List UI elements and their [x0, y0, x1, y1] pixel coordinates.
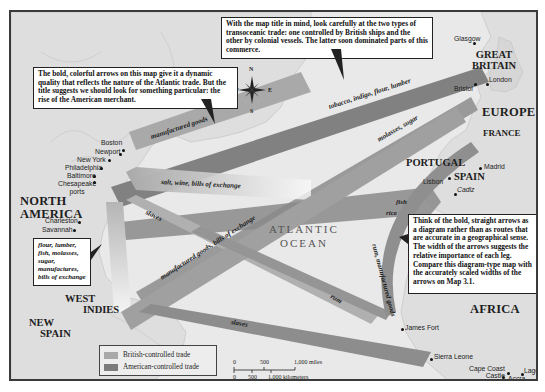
- route-label-rice: rice: [386, 209, 397, 217]
- city-chesapeake: Chesapeake ports: [58, 180, 96, 196]
- city-dot: [93, 181, 96, 184]
- region-west-indies-2: INDIES: [83, 305, 119, 316]
- legend: British-controlled trade American-contro…: [99, 345, 217, 376]
- scale-miles-1000: 1,000 miles: [294, 359, 322, 365]
- city-dot: [73, 229, 76, 232]
- region-europe: EUROPE: [482, 106, 535, 119]
- city-lagos: Lagos: [524, 368, 538, 375]
- city-dot: [119, 153, 122, 156]
- city-dot: [78, 221, 81, 224]
- legend-label-british: British-controlled trade: [123, 351, 190, 359]
- city-dot: [486, 83, 489, 86]
- legend-item-american: American-controlled trade: [104, 361, 212, 373]
- city-philadelphia: Philadelphia: [65, 165, 102, 172]
- region-atlantic-ocean: ATLANTIC OCEAN: [269, 223, 339, 251]
- callout-coastal-goods: flour, lumber, fish, molasses, sugar, ma…: [33, 238, 91, 286]
- atlantic-trade-map: N S W E With the map title in mind, look…: [9, 10, 538, 381]
- city-dot: [479, 167, 482, 170]
- region-spain: SPAIN: [454, 172, 485, 183]
- city-dot: [108, 159, 111, 162]
- city-new-york: New York: [77, 157, 106, 164]
- city-dot: [454, 193, 457, 196]
- city-savannah: Savannah: [42, 227, 73, 234]
- city-dot: [448, 177, 451, 180]
- compass-s: S: [250, 108, 253, 114]
- city-london: London: [489, 77, 512, 84]
- city-madrid: Madrid: [484, 164, 505, 171]
- legend-label-american: American-controlled trade: [123, 363, 199, 371]
- city-accra: Accra: [508, 376, 525, 381]
- scale-miles-500: 500: [260, 359, 269, 365]
- city-charleston: Charleston: [45, 218, 78, 225]
- city-dot: [93, 175, 96, 178]
- scale-km-1000: 1,000 kilometers: [268, 374, 308, 380]
- region-africa: AFRICA: [470, 303, 520, 316]
- city-dot: [100, 167, 103, 170]
- city-dot: [473, 42, 476, 45]
- scale-km-500: 500: [248, 374, 257, 380]
- legend-swatch-american: [104, 364, 118, 371]
- callout-right: Think of the bold, straight arrows as a …: [408, 214, 538, 294]
- city-dot: [521, 373, 524, 376]
- city-dot: [502, 376, 505, 379]
- city-dot: [122, 149, 125, 152]
- city-lisbon: Lisbon: [423, 179, 443, 186]
- city-dot: [507, 372, 510, 375]
- compass-e: E: [268, 87, 272, 93]
- city-james-fort: James Fort: [405, 325, 439, 332]
- region-great-britain: GREAT BRITAIN: [472, 49, 516, 71]
- city-baltimore: Baltimore: [67, 173, 96, 180]
- region-new-spain-2: SPAIN: [40, 329, 71, 340]
- city-boston: Boston: [101, 140, 122, 147]
- legend-swatch-british: [104, 352, 118, 359]
- callout-left: The bold, colorful arrows on this map gi…: [33, 67, 238, 109]
- scale-km-0: 0: [233, 374, 236, 380]
- scale-bar: 0 500 1,000 miles 0 500 1,000 kilometers: [233, 358, 343, 381]
- city-sierra-leone: Sierra Leone: [434, 354, 473, 361]
- city-dot: [474, 83, 477, 86]
- city-newport: Newport: [95, 149, 120, 156]
- legend-item-british: British-controlled trade: [104, 349, 212, 361]
- route-label-fish: fish: [396, 198, 407, 206]
- callout-top: With the map title in mind, look careful…: [221, 17, 433, 59]
- city-dot: [401, 328, 404, 331]
- compass-n: N: [249, 66, 253, 72]
- city-glasgow: Glasgow: [454, 36, 480, 43]
- region-west-indies: WEST: [65, 294, 95, 305]
- city-cape-coast-castle: Cape Coast Castle: [469, 365, 505, 380]
- city-bristol: Bristol: [454, 86, 473, 93]
- scale-miles-0: 0: [233, 359, 236, 365]
- city-cadiz: Cadiz: [457, 187, 474, 194]
- region-new-spain: NEW: [29, 318, 54, 329]
- region-france: FRANCE: [483, 129, 521, 138]
- city-dot: [430, 358, 433, 361]
- region-portugal: PORTUGAL: [406, 158, 465, 169]
